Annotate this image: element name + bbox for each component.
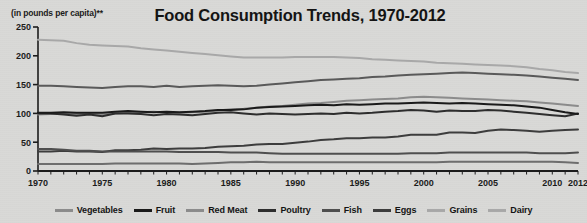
x-tick-label: 2005: [478, 178, 498, 188]
legend-label: Fish: [344, 205, 362, 215]
series-line-fish: [38, 162, 578, 164]
legend-swatch-icon: [373, 209, 391, 212]
y-tick-label: 200: [16, 51, 31, 61]
legend-label: Vegetables: [77, 205, 123, 215]
x-tick-label: 1980: [157, 178, 177, 188]
series-line-dairy: [38, 40, 578, 73]
legend-label: Dairy: [510, 205, 532, 215]
legend-label: Fruit: [156, 205, 176, 215]
series-line-poultry: [38, 130, 578, 152]
line-chart-svg: 0501001502002501970197519801985199019952…: [0, 0, 587, 196]
chart-legend: VegetablesFruitRed MeatPoultryFishEggsGr…: [0, 200, 587, 220]
legend-swatch-icon: [427, 209, 445, 212]
legend-item-eggs[interactable]: Eggs: [373, 205, 417, 215]
legend-swatch-icon: [186, 209, 204, 212]
x-tick-label: 1990: [285, 178, 305, 188]
x-tick-label: 2012: [568, 178, 587, 188]
legend-item-poultry[interactable]: Poultry: [258, 205, 310, 215]
legend-item-grains[interactable]: Grains: [427, 205, 477, 215]
legend-label: Poultry: [280, 205, 310, 215]
legend-label: Grains: [449, 205, 477, 215]
plot-area: 0501001502002501970197519801985199019952…: [0, 0, 587, 196]
y-tick-label: 50: [21, 138, 31, 148]
legend-item-red-meat[interactable]: Red Meat: [186, 205, 247, 215]
legend-swatch-icon: [55, 209, 73, 212]
x-tick-label: 2010: [542, 178, 562, 188]
y-tick-label: 100: [16, 109, 31, 119]
legend-swatch-icon: [488, 209, 506, 212]
legend-swatch-icon: [322, 209, 340, 212]
y-tick-label: 250: [16, 22, 31, 32]
x-tick-label: 2000: [414, 178, 434, 188]
x-tick-label: 1975: [92, 178, 112, 188]
y-tick-label: 150: [16, 80, 31, 90]
legend-item-fish[interactable]: Fish: [322, 205, 362, 215]
legend-swatch-icon: [258, 209, 276, 212]
x-tick-label: 1985: [221, 178, 241, 188]
legend-label: Red Meat: [208, 205, 247, 215]
chart-container: (in pounds per capita)** Food Consumptio…: [0, 0, 587, 223]
legend-label: Eggs: [395, 205, 417, 215]
legend-item-vegetables[interactable]: Vegetables: [55, 205, 123, 215]
x-tick-label: 1970: [28, 178, 48, 188]
series-line-grains: [38, 73, 578, 89]
legend-item-dairy[interactable]: Dairy: [488, 205, 532, 215]
legend-swatch-icon: [134, 209, 152, 212]
y-tick-label: 0: [26, 166, 31, 176]
x-tick-label: 1995: [349, 178, 369, 188]
legend-item-fruit[interactable]: Fruit: [134, 205, 176, 215]
